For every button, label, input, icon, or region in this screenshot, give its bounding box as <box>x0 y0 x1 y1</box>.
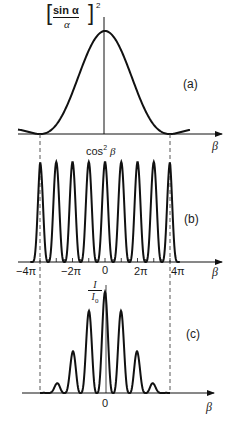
ylabel-numerator: I <box>88 280 102 291</box>
panel-b-ylabel: cos2 β <box>86 144 116 157</box>
ylabel-subscript: 0 <box>95 297 99 305</box>
panel-c-xlabel: β <box>206 401 212 413</box>
panel-c-label: (c) <box>186 328 200 340</box>
panel-b-label: (b) <box>184 213 199 225</box>
tick-label-4pi: 4π <box>171 266 185 277</box>
ylabel-exp: 2 <box>103 144 107 151</box>
panel-b-ticks <box>40 258 170 262</box>
bracket-left: [ <box>46 2 52 24</box>
panel-b-xlabel: β <box>212 266 218 278</box>
bracket-right: ] <box>88 2 94 24</box>
ylabel-func: cos <box>86 145 103 157</box>
ylabel-denominator: α <box>64 19 70 30</box>
panel-c-intensity-curve <box>40 292 170 393</box>
panel-c-tick-zero: 0 <box>102 398 108 409</box>
panel-a-xlabel: β <box>212 140 218 152</box>
ylabel-numerator: sin α <box>53 5 79 18</box>
ylabel-exponent: 2 <box>96 2 100 10</box>
tick-label-2pi: 2π <box>134 266 148 277</box>
panel-a <box>18 17 222 134</box>
panel-a-label: (a) <box>183 78 198 90</box>
tick-label-neg4pi: −4π <box>16 266 36 277</box>
tick-label-zero: 0 <box>102 265 108 276</box>
ylabel-var: β <box>110 145 115 157</box>
tick-label-neg2pi: −2π <box>61 266 81 277</box>
panel-c-ylabel: I I0 <box>88 280 102 307</box>
diffraction-figure <box>0 0 236 421</box>
panel-b-fringe-curve <box>30 162 180 262</box>
